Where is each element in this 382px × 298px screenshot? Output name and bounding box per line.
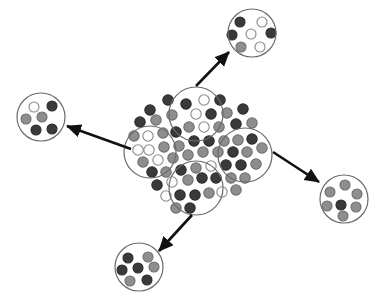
extracted-right-gray-dot bbox=[352, 189, 362, 199]
central-gray-dot bbox=[247, 118, 257, 128]
extracted-bottom-left-gray-dot bbox=[149, 262, 159, 272]
central-dark-dot bbox=[238, 104, 248, 114]
diagram-background bbox=[0, 0, 382, 298]
central-dark-dot bbox=[197, 173, 207, 183]
central-gray-dot bbox=[191, 163, 201, 173]
extracted-bottom-left-dark-dot bbox=[142, 275, 152, 285]
central-gray-dot bbox=[159, 142, 169, 152]
cluster-extraction-diagram bbox=[0, 0, 382, 298]
central-gray-dot bbox=[198, 147, 208, 157]
central-dark-dot bbox=[236, 160, 246, 170]
central-gray-dot bbox=[233, 135, 243, 145]
extracted-left-dark-dot bbox=[47, 124, 57, 134]
extracted-bottom-left-dark-dot bbox=[123, 253, 133, 263]
central-gray-dot bbox=[257, 143, 267, 153]
central-gray-dot bbox=[167, 110, 177, 120]
diagram-canvas bbox=[0, 0, 382, 298]
extracted-right-gray-dot bbox=[325, 187, 335, 197]
central-dark-dot bbox=[231, 119, 241, 129]
central-dark-dot bbox=[176, 165, 186, 175]
extracted-right-gray-dot bbox=[340, 180, 350, 190]
central-dark-dot bbox=[135, 117, 145, 127]
central-gray-dot bbox=[183, 150, 193, 160]
extracted-bottom-left-gray-dot bbox=[143, 252, 153, 262]
central-dark-dot bbox=[190, 190, 200, 200]
central-dark-dot bbox=[228, 147, 238, 157]
central-dark-dot bbox=[175, 190, 185, 200]
extracted-left-gray-dot bbox=[37, 112, 47, 122]
central-gray-dot bbox=[171, 203, 181, 213]
extracted-left-white-dot bbox=[29, 102, 39, 112]
central-white-dot bbox=[153, 155, 163, 165]
central-gray-dot bbox=[184, 122, 194, 132]
central-dark-dot bbox=[206, 109, 216, 119]
central-gray-dot bbox=[151, 115, 161, 125]
extracted-right bbox=[320, 175, 368, 223]
central-gray-dot bbox=[242, 147, 252, 157]
extracted-right-dark-dot bbox=[336, 200, 346, 210]
extracted-left-dark-dot bbox=[31, 125, 41, 135]
central-white-dot bbox=[133, 145, 143, 155]
extracted-top-right-white-dot bbox=[246, 29, 256, 39]
central-dark-dot bbox=[247, 134, 257, 144]
central-white-dot bbox=[167, 177, 177, 187]
extracted-bottom-left-gray-dot bbox=[125, 276, 135, 286]
extracted-bottom-left-dark-dot bbox=[133, 263, 143, 273]
central-white-dot bbox=[199, 122, 209, 132]
extracted-top-right-white-dot bbox=[255, 42, 265, 52]
extracted-right-gray-dot bbox=[351, 202, 361, 212]
extracted-right-gray-dot bbox=[338, 211, 348, 221]
central-white-dot bbox=[143, 131, 153, 141]
central-white-dot bbox=[199, 95, 209, 105]
extracted-top-right-dark-dot bbox=[235, 17, 245, 27]
central-gray-dot bbox=[204, 188, 214, 198]
central-dark-dot bbox=[152, 180, 162, 190]
extracted-left bbox=[17, 93, 65, 141]
central-white-dot bbox=[144, 145, 154, 155]
extracted-left-gray-dot bbox=[21, 114, 31, 124]
extracted-top-right-dark-dot bbox=[266, 28, 276, 38]
extracted-top-right bbox=[227, 9, 276, 57]
extracted-bottom-left-dark-dot bbox=[117, 265, 127, 275]
central-dark-dot bbox=[145, 105, 155, 115]
central-dark-dot bbox=[147, 167, 157, 177]
central-dark-dot bbox=[181, 99, 191, 109]
central-gray-dot bbox=[168, 153, 178, 163]
extracted-right-gray-dot bbox=[322, 201, 332, 211]
extracted-bottom-left bbox=[115, 243, 163, 291]
extracted-top-right-white-dot bbox=[257, 17, 267, 27]
central-gray-dot bbox=[231, 185, 241, 195]
central-gray-dot bbox=[129, 131, 139, 141]
extracted-top-right-gray-dot bbox=[236, 42, 246, 52]
central-white-dot bbox=[191, 109, 201, 119]
central-gray-dot bbox=[183, 175, 193, 185]
extracted-left-dark-dot bbox=[47, 101, 57, 111]
central-gray-dot bbox=[251, 159, 261, 169]
central-dark-dot bbox=[185, 203, 195, 213]
central-gray-dot bbox=[138, 157, 148, 167]
